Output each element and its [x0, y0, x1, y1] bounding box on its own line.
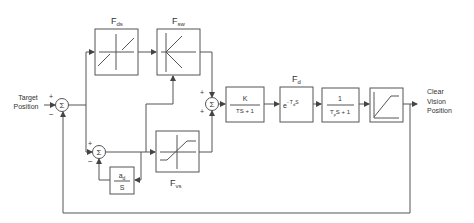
svg-text:ad: ad [119, 172, 126, 181]
svg-text:Vision: Vision [427, 98, 446, 105]
fd-label: Fd [292, 74, 301, 85]
svg-text:+: + [88, 140, 92, 147]
svg-text:−: − [88, 157, 93, 166]
delay-expression: e- TdS [283, 99, 299, 109]
svg-text:TS + 1: TS + 1 [236, 108, 255, 114]
block-diagram: Target Position + − Σ Σ Σ + − + + Fds Fs… [0, 0, 474, 223]
svg-text:Σ: Σ [60, 101, 65, 110]
svg-text:1: 1 [338, 95, 342, 102]
saturation-block [370, 88, 403, 122]
plus-sign: + [49, 93, 53, 100]
svg-text:Position: Position [427, 107, 452, 114]
svg-text:TpS + 1: TpS + 1 [330, 109, 351, 117]
fds-label: Fds [111, 16, 123, 27]
fsw-label: Fsw [172, 16, 186, 27]
svg-text:Position: Position [14, 103, 39, 110]
svg-text:Σ: Σ [97, 148, 102, 157]
input-label: Target [18, 94, 38, 102]
svg-text:Σ: Σ [210, 100, 215, 109]
svg-text:+: + [200, 89, 204, 96]
fvs-label: Fvs [170, 178, 182, 189]
svg-text:K: K [243, 95, 248, 102]
svg-text:S: S [120, 184, 125, 191]
minus-sign: − [49, 110, 54, 119]
svg-text:+: + [200, 108, 204, 115]
output-label: Clear [427, 88, 444, 95]
